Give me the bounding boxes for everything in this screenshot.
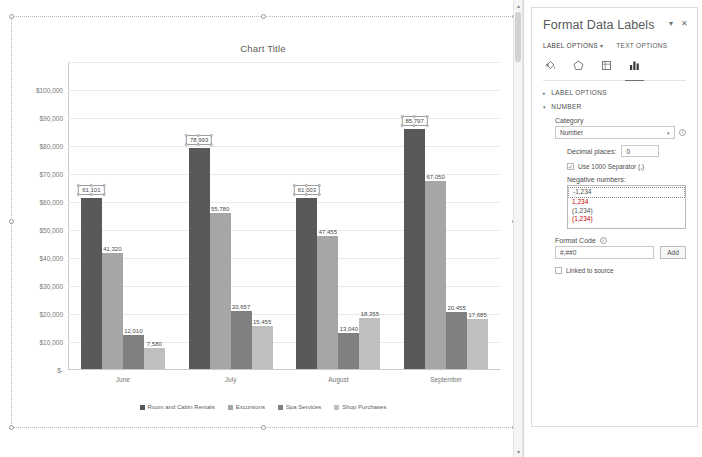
bar[interactable]: 41,320 <box>102 253 123 369</box>
section-label-options-triangle-icon[interactable]: ▸ <box>543 90 546 96</box>
data-label[interactable]: 85,797 <box>401 116 427 126</box>
bar-fill[interactable] <box>81 198 102 369</box>
scroll-down-arrow-icon[interactable]: ▾ <box>514 448 522 455</box>
negative-numbers-listbox[interactable]: -1,2341,234(1,234)(1,234) <box>567 185 686 229</box>
bar-fill[interactable] <box>425 181 446 369</box>
thousands-separator-row[interactable]: ✓ Use 1000 Separator (,) <box>567 163 686 170</box>
chart-resize-handle-n[interactable] <box>261 14 266 19</box>
worksheet-area[interactable]: Chart Title $110,000$100,000$90,000$80,0… <box>0 0 523 457</box>
fill-and-line-icon[interactable] <box>543 58 558 73</box>
bar-fill[interactable] <box>189 148 210 369</box>
chart-resize-handle-nw[interactable] <box>9 14 14 19</box>
size-and-properties-icon[interactable] <box>599 58 614 73</box>
chart-title[interactable]: Chart Title <box>12 43 514 54</box>
data-label[interactable]: 12,010 <box>124 328 142 334</box>
data-label-handle-5[interactable] <box>318 193 321 196</box>
data-label-handle-4[interactable] <box>413 124 416 127</box>
linked-to-source-row[interactable]: Linked to source <box>555 267 686 274</box>
scrollbar-thumb[interactable] <box>515 12 521 62</box>
bar-fill[interactable] <box>317 236 338 369</box>
chevron-down-icon[interactable]: ▾ <box>667 130 670 136</box>
bar[interactable]: 18,355 <box>359 318 380 369</box>
plot-area[interactable]: $110,000$100,000$90,000$80,000$70,000$60… <box>68 62 500 370</box>
chevron-down-icon[interactable]: ▾ <box>600 43 603 49</box>
format-code-input[interactable]: #,##0 <box>555 246 654 259</box>
bar[interactable]: 61,003 <box>296 198 317 369</box>
bar-fill[interactable] <box>296 198 317 369</box>
data-label-handle-1[interactable] <box>89 184 92 187</box>
bar-fill[interactable] <box>446 312 467 369</box>
data-label-handle-3[interactable] <box>77 193 80 196</box>
format-code-add-button[interactable]: Add <box>660 246 686 259</box>
label-options-icon[interactable] <box>627 58 642 73</box>
data-label-handle-5[interactable] <box>426 124 429 127</box>
data-label[interactable]: 20,455 <box>447 305 465 311</box>
data-label[interactable]: 20,657 <box>232 304 250 310</box>
data-label[interactable]: 15,455 <box>253 319 271 325</box>
data-label-handle-4[interactable] <box>305 193 308 196</box>
bar[interactable]: 67,050 <box>425 181 446 369</box>
worksheet-vertical-scrollbar[interactable]: ▴ ▾ <box>513 0 523 457</box>
chart-object[interactable]: Chart Title $110,000$100,000$90,000$80,0… <box>11 16 515 428</box>
chart-resize-handle-w[interactable] <box>9 219 14 224</box>
bar-fill[interactable] <box>210 213 231 369</box>
format-code-info-icon[interactable]: i <box>600 237 607 244</box>
data-label[interactable]: 61,003 <box>294 185 320 195</box>
data-label-handle-3[interactable] <box>185 143 188 146</box>
data-label[interactable]: 67,050 <box>426 174 444 180</box>
bar-fill[interactable] <box>404 129 425 369</box>
bar[interactable]: 7,580 <box>144 348 165 369</box>
data-label[interactable]: 78,993 <box>186 135 212 145</box>
data-label[interactable]: 47,455 <box>319 229 337 235</box>
data-label[interactable]: 41,320 <box>103 246 121 252</box>
data-label-handle-1[interactable] <box>305 184 308 187</box>
chart-legend[interactable]: Room and Cabin RentalsExcursionsSpa Serv… <box>12 404 514 410</box>
data-label-handle-0[interactable] <box>77 184 80 187</box>
pane-options-caret-icon[interactable]: ▾ <box>669 19 673 28</box>
chart-resize-handle-sw[interactable] <box>9 425 14 430</box>
data-label-handle-2[interactable] <box>103 184 106 187</box>
bar-fill[interactable] <box>144 348 165 369</box>
legend-item[interactable]: Room and Cabin Rentals <box>140 404 215 410</box>
pane-tab-text-options[interactable]: TEXT OPTIONS <box>616 42 667 49</box>
data-label[interactable]: 13,040 <box>340 326 358 332</box>
legend-item[interactable]: Spa Services <box>278 404 321 410</box>
linked-to-source-checkbox[interactable]: Linked to source <box>555 267 614 274</box>
bar[interactable]: 85,797 <box>404 129 425 369</box>
bar[interactable]: 78,993 <box>189 148 210 369</box>
thousands-separator-checkbox[interactable]: ✓ Use 1000 Separator (,) <box>567 163 644 170</box>
negative-number-option-1[interactable]: 1,234 <box>568 198 685 207</box>
bar[interactable]: 20,657 <box>231 311 252 369</box>
bar[interactable]: 61,101 <box>81 198 102 369</box>
bar-fill[interactable] <box>102 253 123 369</box>
data-label-handle-5[interactable] <box>210 143 213 146</box>
data-label[interactable]: 7,580 <box>147 341 162 347</box>
data-label-handle-0[interactable] <box>400 115 403 118</box>
data-label-handle-4[interactable] <box>197 143 200 146</box>
chart-resize-handle-s[interactable] <box>261 425 266 430</box>
bar-fill[interactable] <box>231 311 252 369</box>
decimal-places-input[interactable]: 0 <box>621 145 659 157</box>
bar-fill[interactable] <box>338 333 359 370</box>
data-label-handle-2[interactable] <box>210 134 213 137</box>
negative-number-option-2[interactable]: (1,234) <box>568 207 685 216</box>
effects-icon[interactable] <box>571 58 586 73</box>
bar[interactable]: 47,455 <box>317 236 338 369</box>
negative-number-option-3[interactable]: (1,234) <box>568 215 685 224</box>
data-label-handle-1[interactable] <box>197 134 200 137</box>
section-number[interactable]: ▾ NUMBER <box>543 103 686 110</box>
data-label-handle-0[interactable] <box>185 134 188 137</box>
bar[interactable]: 12,010 <box>123 335 144 369</box>
data-label[interactable]: 17,685 <box>468 312 486 318</box>
bar[interactable]: 15,455 <box>252 326 273 369</box>
bar[interactable]: 17,685 <box>467 319 488 369</box>
data-label[interactable]: 18,355 <box>361 311 379 317</box>
data-label-handle-2[interactable] <box>426 115 429 118</box>
bar-fill[interactable] <box>123 335 144 369</box>
data-label[interactable]: 55,780 <box>211 206 229 212</box>
bar[interactable]: 55,780 <box>210 213 231 369</box>
bar-fill[interactable] <box>359 318 380 369</box>
bar-fill[interactable] <box>467 319 488 369</box>
section-number-triangle-icon[interactable]: ▾ <box>543 104 546 110</box>
data-label-handle-4[interactable] <box>89 193 92 196</box>
